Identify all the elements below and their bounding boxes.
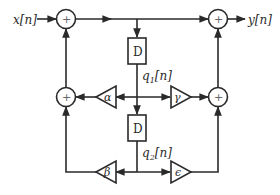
adder-mid-right: +: [209, 88, 228, 107]
adder-mid-left: +: [57, 88, 76, 107]
adder-top-left: +: [57, 10, 76, 29]
gain-alpha-label: α: [104, 91, 112, 104]
output-label: y[n]: [247, 13, 272, 27]
input-label: x[n]: [13, 13, 37, 27]
state-q1-label: q1[n]: [142, 69, 172, 85]
adder-top-right: +: [209, 10, 228, 29]
gain-beta-label: β: [103, 166, 110, 179]
state-q2-label: q2[n]: [142, 146, 172, 162]
svg-text:+: +: [214, 13, 223, 26]
beta-to-mid-left-adder-arrow: [66, 107, 96, 172]
svg-text:+: +: [214, 91, 223, 104]
gain-epsilon-label: ϵ: [175, 166, 181, 179]
delay-top-label: D: [133, 45, 143, 59]
delay-bottom-label: D: [133, 122, 143, 136]
svg-text:+: +: [62, 91, 71, 104]
epsilon-to-mid-right-adder-arrow: [191, 107, 218, 172]
signal-flow-diagram: x[n] y[n] D q1[n] α γ D q2[n] β ϵ: [0, 0, 280, 195]
gain-gamma-label: γ: [174, 91, 181, 104]
svg-text:+: +: [62, 13, 71, 26]
